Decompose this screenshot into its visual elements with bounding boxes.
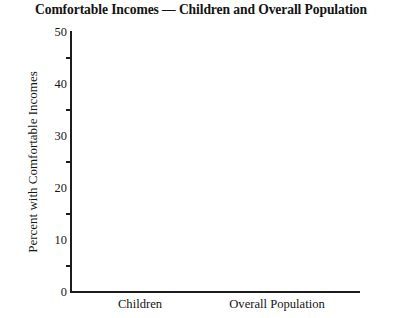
chart-figure: Comfortable Incomes — Children and Overa… — [0, 0, 402, 318]
data-series-layer — [71, 32, 359, 292]
y-tick-label: 40 — [55, 76, 67, 93]
plot-area — [71, 32, 359, 292]
y-axis-title: Percent with Comfortable Incomes — [24, 32, 42, 292]
x-tick-label-1: Overall Population — [229, 295, 325, 313]
x-axis-labels: ChildrenOverall Population — [0, 295, 402, 315]
x-tick-label-0: Children — [118, 295, 162, 313]
y-tick-label: 30 — [55, 128, 67, 145]
y-tick-label: 50 — [55, 24, 67, 41]
y-tick-label: 10 — [55, 232, 67, 249]
y-tick-label: 20 — [55, 180, 67, 197]
